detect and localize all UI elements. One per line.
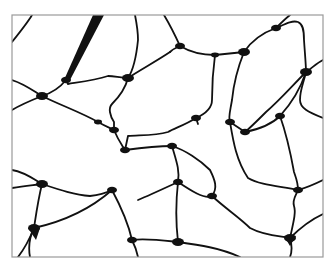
wall-junction-node bbox=[61, 77, 71, 83]
wall-junction-node bbox=[120, 147, 130, 153]
wall-junction-node bbox=[172, 238, 184, 246]
wall-junction-node bbox=[211, 53, 219, 58]
wall-junction-node bbox=[238, 48, 250, 56]
wall-junction-node bbox=[191, 115, 201, 121]
wall-junction-node bbox=[173, 179, 183, 185]
wall-junction-node bbox=[36, 180, 48, 188]
wall-junction-node bbox=[271, 25, 281, 31]
wall-junction-node bbox=[36, 92, 48, 100]
wall-junction-node bbox=[300, 68, 312, 76]
wall-junction-node bbox=[284, 234, 296, 242]
wall-junction-node bbox=[175, 43, 185, 49]
wall-junction-node bbox=[225, 119, 235, 125]
figure-caption-clipped bbox=[12, 264, 324, 272]
page-background bbox=[0, 0, 334, 272]
wall-junction-node bbox=[167, 143, 177, 149]
foam-cell-figure bbox=[0, 0, 334, 272]
wall-junction-node bbox=[94, 120, 102, 125]
wall-junction-node bbox=[207, 193, 217, 199]
wall-junction-node bbox=[122, 74, 134, 82]
wall-junction-node bbox=[293, 187, 303, 193]
wall-junction-node bbox=[275, 113, 285, 119]
wall-junction-node bbox=[107, 187, 117, 193]
wall-junction-node bbox=[127, 237, 137, 243]
cell-network-diagram bbox=[0, 0, 334, 272]
wall-junction-node bbox=[28, 224, 40, 232]
wall-junction-node bbox=[240, 129, 250, 135]
wall-junction-node bbox=[109, 127, 119, 133]
